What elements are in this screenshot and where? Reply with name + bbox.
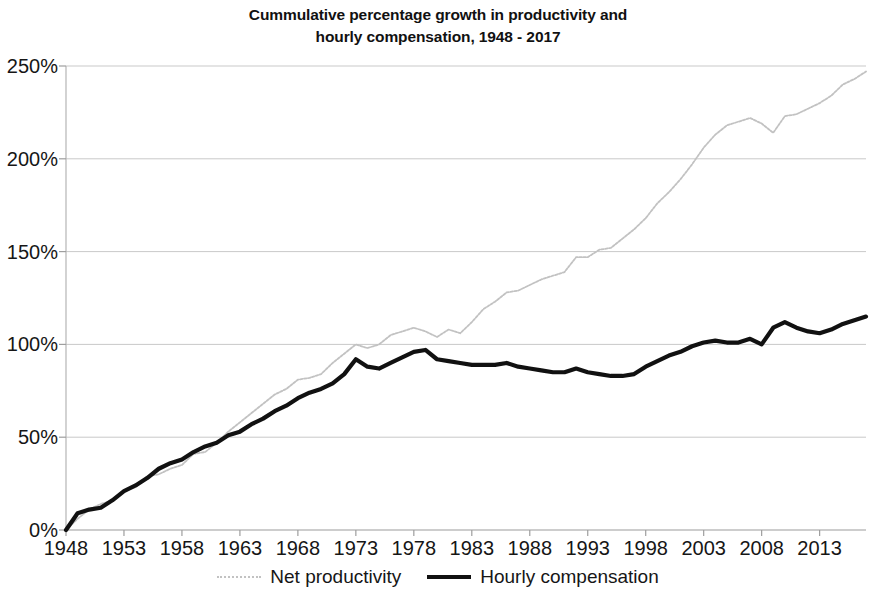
y-tick-label-100: 100%	[0, 334, 58, 354]
legend-entry-hourly-compensation: Hourly compensation	[427, 566, 658, 588]
y-tick-label-50: 50%	[0, 427, 58, 447]
data-series-group	[66, 72, 866, 530]
legend-label-hourly-compensation: Hourly compensation	[480, 566, 658, 588]
series-line-net-productivity	[66, 72, 866, 530]
series-line-hourly-compensation	[66, 317, 866, 530]
y-tick-label-250: 250%	[0, 56, 58, 76]
plot-area	[0, 0, 876, 594]
y-axis-ticks	[59, 66, 66, 530]
x-axis-ticks	[66, 530, 820, 536]
legend-label-net-productivity: Net productivity	[270, 566, 401, 588]
y-tick-label-200: 200%	[0, 149, 58, 169]
chart-figure: Cummulative percentage growth in product…	[0, 0, 876, 594]
x-tick-label-2013: 2013	[785, 538, 855, 558]
legend-entry-net-productivity: Net productivity	[217, 566, 401, 588]
chart-legend: Net productivity Hourly compensation	[0, 566, 876, 588]
legend-swatch-net-productivity	[217, 576, 261, 578]
y-tick-label-150: 150%	[0, 242, 58, 262]
legend-swatch-hourly-compensation	[427, 575, 471, 579]
